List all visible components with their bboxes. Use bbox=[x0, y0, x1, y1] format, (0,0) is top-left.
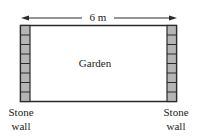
right-wall-label: Stone wall bbox=[158, 105, 194, 133]
right-wall-label-line-1: Stone bbox=[158, 105, 194, 119]
left-wall-label: Stone wall bbox=[3, 105, 39, 133]
right-stone-wall bbox=[167, 26, 177, 102]
left-wall-label-line-2: wall bbox=[3, 119, 39, 133]
dimension-label: 6 m bbox=[82, 10, 114, 24]
garden-label: Garden bbox=[70, 56, 120, 70]
left-wall-label-line-1: Stone bbox=[3, 105, 39, 119]
right-wall-label-line-2: wall bbox=[158, 119, 194, 133]
left-stone-wall bbox=[21, 26, 31, 102]
